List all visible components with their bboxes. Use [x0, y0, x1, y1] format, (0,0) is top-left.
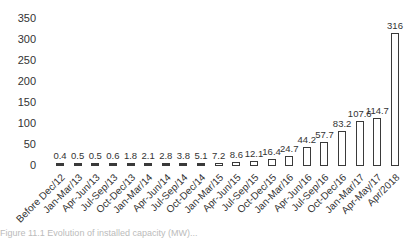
y-tick-label: 250 [6, 54, 36, 66]
bar [56, 163, 64, 166]
y-tick-label: 350 [6, 12, 36, 24]
y-tick-label: 0 [6, 159, 36, 171]
value-label: 83.2 [327, 118, 357, 129]
bar [179, 163, 187, 166]
bar [215, 163, 223, 166]
bar [268, 159, 276, 166]
bar [373, 118, 381, 166]
y-tick-label: 300 [6, 33, 36, 45]
bar [127, 163, 135, 166]
value-label: 114.7 [362, 105, 392, 116]
bar [162, 163, 170, 166]
bar [74, 163, 82, 166]
bar [338, 131, 346, 166]
bar [391, 33, 399, 166]
bar [356, 121, 364, 166]
bar [91, 163, 99, 166]
value-label: 57.7 [309, 129, 339, 140]
bar [250, 161, 258, 166]
bar [144, 163, 152, 166]
figure-caption: Figure 11.1 Evolution of installed capac… [0, 228, 197, 238]
bar [320, 142, 328, 166]
y-tick-label: 200 [6, 75, 36, 87]
y-tick-label: 50 [6, 138, 36, 150]
y-tick-label: 150 [6, 96, 36, 108]
value-label: 316 [380, 20, 410, 31]
bar [303, 147, 311, 166]
bar [232, 162, 240, 166]
bar-chart: 0501001502002503003500.4Before Dec/120.5… [0, 0, 411, 238]
bar [109, 163, 117, 166]
bar [197, 163, 205, 166]
bar [285, 156, 293, 166]
y-tick-label: 100 [6, 117, 36, 129]
